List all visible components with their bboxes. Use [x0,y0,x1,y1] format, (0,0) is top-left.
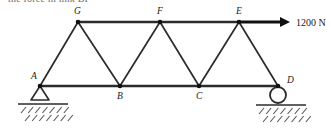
hatch-left [21,107,73,121]
hatch-tick [306,116,311,122]
hatch-tick [42,107,47,113]
hatch-tick [288,108,293,114]
hatch-tick [263,116,268,122]
hatch-tick [273,108,278,114]
hatch-tick [54,115,59,121]
hatch-tick [21,107,26,113]
hatch-tick [266,108,271,114]
hatch-tick [25,115,30,121]
hatch-tick [68,115,73,121]
hatch-tick [284,116,289,122]
hatch-tick [57,107,62,113]
applied-load-arrow: 1200 N [239,17,326,28]
joint-label-F: F [156,6,163,16]
hatch-tick [35,107,40,113]
hatch-tick [277,116,282,122]
hatch-right [259,108,311,122]
hatch-tick [32,115,37,121]
hatch-tick [280,108,285,114]
roller-support-D [256,87,311,122]
roller-circle-icon [270,87,286,103]
joint-label-C: C [196,91,203,101]
truss-member-FC [160,22,199,86]
load-arrow-head-icon [280,17,290,27]
joint-label-B: B [117,91,123,101]
hatch-tick [61,115,66,121]
joint-label-D: D [286,75,294,85]
joint-dot-G [76,20,81,25]
hatch-tick [46,115,51,121]
hatch-tick [292,116,297,122]
truss-member-ED [239,22,278,86]
truss-member-BF [120,22,160,86]
load-magnitude-label: 1200 N [296,17,326,28]
joint-label-E: E [235,6,242,16]
hatch-tick [50,107,55,113]
hatch-tick [259,108,264,114]
truss-member-GB [78,22,120,86]
hatch-tick [302,108,307,114]
joint-dot-C [197,84,202,89]
joint-dot-A [38,84,43,89]
hatch-tick [28,107,33,113]
joint-dot-D [276,84,281,89]
joint-dot-B [118,84,123,89]
joint-label-A: A [30,71,37,81]
hatch-tick [64,107,69,113]
truss-figure: ABCDEFG 1200 N [0,0,331,128]
hatch-tick [299,116,304,122]
truss-diagram-screenshot: the force in link BF ABCDEFG 1200 N [0,0,331,128]
hatch-tick [295,108,300,114]
truss-member-AG [40,22,78,86]
pin-support-A [18,86,73,121]
hatch-tick [270,116,275,122]
truss-member-CE [199,22,239,86]
joint-label-G: G [74,6,81,16]
hatch-tick [39,115,44,121]
truss-members [40,22,278,86]
joint-dot-F [158,20,163,25]
